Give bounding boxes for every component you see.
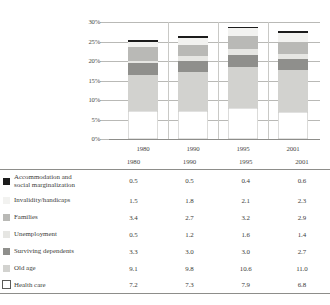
- bar-segment: [228, 55, 258, 67]
- table-row: Invalidity/handicaps1.51.82.12.3: [0, 192, 330, 209]
- table-cell-value: 0.4: [218, 170, 274, 192]
- table-cell-value: 3.0: [161, 243, 217, 260]
- x-axis-tick-label: 1990: [173, 145, 213, 152]
- table-header-row: 1980 1990 1995 2001: [0, 158, 330, 168]
- table-cell-value: 1.4: [274, 226, 330, 243]
- footer-rule-line: [0, 294, 330, 296]
- table-cell-value: 2.7: [161, 209, 217, 226]
- bar-segment: [228, 67, 258, 108]
- chart-bar[interactable]: [178, 36, 208, 139]
- x-axis-tick-label: 1995: [223, 145, 263, 152]
- legend-label: Invalidity/handicaps: [13, 192, 105, 209]
- chart-bar[interactable]: [228, 27, 258, 139]
- legend-label: Unemployment: [13, 226, 105, 243]
- table-cell-value: 2.7: [274, 243, 330, 260]
- legend-swatch: [2, 280, 11, 289]
- table-row: Surviving dependents3.33.03.02.7: [0, 243, 330, 260]
- bar-segment: [128, 75, 158, 110]
- legend-swatch: [3, 197, 10, 204]
- table-cell-value: 1.8: [161, 192, 217, 209]
- table-cell-value: 7.3: [161, 277, 217, 294]
- table-cell-value: 3.4: [105, 209, 161, 226]
- y-axis-tick-label: 25%: [74, 38, 100, 45]
- bar-segment: [228, 36, 258, 48]
- table-cell-value: 11.0: [274, 260, 330, 277]
- table-body: Accommodation andsocial marginalization0…: [0, 170, 330, 294]
- table-row: Health care7.27.37.96.8: [0, 277, 330, 294]
- bar-segment: [178, 38, 208, 45]
- table-cell-value: 0.6: [274, 170, 330, 192]
- y-axis-tick: [100, 100, 109, 101]
- table-cell-value: 3.3: [105, 243, 161, 260]
- footer-rule: [0, 294, 330, 296]
- category-separator: [168, 22, 169, 139]
- bar-segment: [128, 47, 158, 60]
- legend-swatch: [3, 178, 10, 185]
- spacer-cell: [13, 158, 105, 168]
- legend-label: Old age: [13, 260, 105, 277]
- data-table: 1980 1990 1995 2001 Accommodation andsoc…: [0, 158, 330, 295]
- bar-segment: [178, 61, 208, 73]
- table-cell-value: 7.2: [105, 277, 161, 294]
- stacked-bar-chart: 0%5%10%15%20%25%30%1980199019952001: [0, 0, 330, 158]
- table-cell-value: 0.5: [105, 170, 161, 192]
- chart-gridline: [108, 139, 320, 140]
- y-axis-tick: [100, 81, 109, 82]
- chart-plot-area: 0%5%10%15%20%25%30%1980199019952001: [118, 22, 318, 139]
- y-axis-tick: [100, 120, 109, 121]
- data-table-with-legend: 1980 1990 1995 2001 Accommodation andsoc…: [0, 158, 330, 305]
- chart-bar[interactable]: [278, 31, 308, 139]
- legend-label: Surviving dependents: [13, 243, 105, 260]
- bar-segment: [278, 59, 308, 70]
- chart-bar[interactable]: [128, 40, 158, 139]
- bar-segment: [128, 111, 158, 139]
- table-cell-value: 3.0: [218, 243, 274, 260]
- legend-swatch-cell: [0, 192, 13, 209]
- y-axis-tick-label: 20%: [74, 57, 100, 64]
- table-row: Old age9.19.810.611.0: [0, 260, 330, 277]
- table-row: Families3.42.73.22.9: [0, 209, 330, 226]
- y-axis-tick: [100, 22, 109, 23]
- x-axis-tick-label: 2001: [273, 145, 313, 152]
- legend-swatch-cell: [0, 209, 13, 226]
- table-cell-value: 3.2: [218, 209, 274, 226]
- column-header-year: 1995: [218, 158, 274, 168]
- bar-segment: [178, 45, 208, 56]
- spacer-cell: [0, 158, 13, 168]
- legend-swatch: [3, 265, 10, 272]
- chart-gridline: [108, 22, 320, 23]
- bar-segment: [178, 72, 208, 110]
- y-axis-tick: [100, 61, 109, 62]
- legend-swatch-cell: [0, 226, 13, 243]
- table-cell-value: 10.6: [218, 260, 274, 277]
- table-row: Accommodation andsocial marginalization0…: [0, 170, 330, 192]
- bar-segment: [278, 42, 308, 53]
- column-header-year: 2001: [274, 158, 330, 168]
- bar-segment: [178, 111, 208, 139]
- bar-segment: [278, 33, 308, 42]
- y-axis-tick-label: 15%: [74, 77, 100, 84]
- y-axis-tick-label: 5%: [74, 116, 100, 123]
- table-cell-value: 1.6: [218, 226, 274, 243]
- legend-swatch-cell: [0, 277, 13, 294]
- table-cell-value: 1.5: [105, 192, 161, 209]
- y-axis-tick-label: 30%: [74, 18, 100, 25]
- legend-swatch-cell: [0, 260, 13, 277]
- x-axis-tick-label: 1980: [123, 145, 163, 152]
- y-axis-tick: [100, 42, 109, 43]
- legend-swatch: [3, 248, 10, 255]
- bar-segment: [278, 70, 308, 113]
- table-row: Unemployment0.51.21.61.4: [0, 226, 330, 243]
- table-cell-value: 0.5: [161, 170, 217, 192]
- table-head: 1980 1990 1995 2001: [0, 158, 330, 170]
- y-axis-tick-label: 0%: [74, 135, 100, 142]
- y-axis-tick-label: 10%: [74, 96, 100, 103]
- table-cell-value: 9.8: [161, 260, 217, 277]
- legend-swatch-cell: [0, 170, 13, 192]
- table-cell-value: 1.2: [161, 226, 217, 243]
- legend-label: Accommodation andsocial marginalization: [13, 170, 105, 192]
- table-cell-value: 2.9: [274, 209, 330, 226]
- column-header-year: 1990: [161, 158, 217, 168]
- column-header-year: 1980: [105, 158, 161, 168]
- table-cell-value: 2.3: [274, 192, 330, 209]
